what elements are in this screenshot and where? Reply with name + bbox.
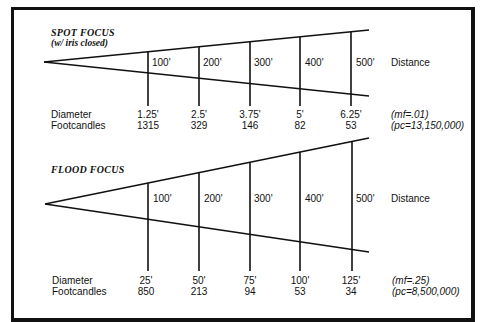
flood-footcandles-400: 53 [280, 286, 320, 297]
flood-distance-300: 300' [254, 193, 273, 204]
flood-distance-500: 500' [356, 193, 375, 204]
flood-diameter-300: 75' [230, 275, 270, 286]
spot-pc-note: (pc=13,150,000) [391, 120, 464, 131]
flood-diameter-label: Diameter [52, 275, 93, 286]
spot-title: SPOT FOCUS [51, 27, 115, 38]
spot-diameter-500: 6.25' [331, 109, 371, 120]
flood-footcandles-500: 34 [331, 286, 371, 297]
spot-distance-300: 300' [254, 57, 273, 68]
spot-mf-note: (mf=.01) [391, 109, 429, 120]
spot-diameter-label: Diameter [51, 109, 92, 120]
flood-diameter-100: 25' [126, 275, 166, 286]
spot-footcandles-100: 1315 [128, 120, 168, 131]
flood-pc-note: (pc=8,500,000) [392, 286, 460, 297]
flood-distance-label: Distance [391, 193, 430, 204]
spot-distance-200: 200' [203, 57, 222, 68]
spot-distance-500: 500' [356, 57, 375, 68]
spot-diameter-100: 1.25' [128, 109, 168, 120]
flood-footcandles-100: 850 [126, 286, 166, 297]
spot-diameter-300: 3.75' [230, 109, 270, 120]
flood-footcandles-200: 213 [179, 286, 219, 297]
flood-footcandles-300: 94 [230, 286, 270, 297]
flood-footcandles-label: Footcandles [52, 286, 106, 297]
spot-footcandles-200: 329 [179, 120, 219, 131]
flood-diameter-500: 125' [331, 275, 371, 286]
flood-mf-note: (mf=.25) [392, 275, 430, 286]
spot-footcandles-400: 82 [280, 120, 320, 131]
spot-footcandles-300: 146 [230, 120, 270, 131]
flood-diameter-400: 100' [280, 275, 320, 286]
spot-distance-label: Distance [391, 57, 430, 68]
flood-distance-200: 200' [204, 193, 223, 204]
spot-distance-400: 400' [305, 57, 324, 68]
flood-diameter-200: 50' [179, 275, 219, 286]
spot-distance-100: 100' [152, 57, 171, 68]
spot-footcandles-label: Footcandles [51, 120, 105, 131]
flood-cone [45, 138, 369, 271]
flood-distance-100: 100' [153, 193, 172, 204]
spot-subtitle: (w/ iris closed) [51, 38, 108, 49]
spot-footcandles-500: 53 [331, 120, 371, 131]
spot-diameter-400: 5' [280, 109, 320, 120]
flood-title: FLOOD FOCUS [51, 164, 125, 175]
spot-diameter-200: 2.5' [179, 109, 219, 120]
flood-distance-400: 400' [305, 193, 324, 204]
